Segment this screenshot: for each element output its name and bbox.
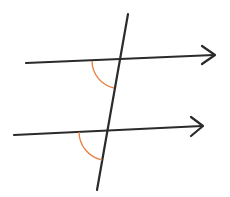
- lines-layer: [14, 14, 214, 190]
- angle-arcs-layer: [79, 61, 114, 160]
- transversal: [97, 14, 128, 190]
- top-angle-arc: [92, 61, 114, 88]
- bottom-angle-arc: [79, 132, 102, 160]
- diagram-canvas: [0, 0, 230, 197]
- parallel-lines-diagram: [0, 0, 230, 197]
- arrowheads-layer: [191, 46, 215, 136]
